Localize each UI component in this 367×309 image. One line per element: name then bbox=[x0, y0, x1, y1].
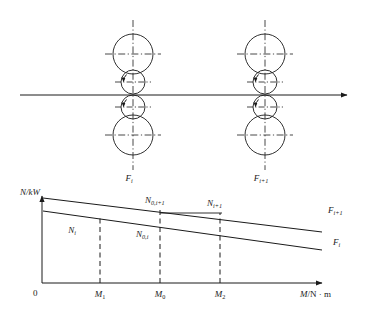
chart-x-axis-label: M/N · m bbox=[299, 289, 331, 299]
stand-i-plus-1-work-roll-bottom-rotation-arrow bbox=[256, 100, 259, 107]
point-label-n-0-i-plus-1: N0,i+1 bbox=[144, 195, 165, 206]
curve-f-i bbox=[43, 211, 322, 250]
chart-origin-label: 0 bbox=[33, 288, 38, 298]
stand-i-plus-1: Fi+1 bbox=[237, 20, 293, 184]
x-tick-label-m2: M2 bbox=[214, 289, 226, 300]
mill-diagram: Fi Fi+1 bbox=[20, 20, 347, 184]
point-label-n-i-plus-1: Ni+1 bbox=[206, 198, 222, 209]
curve-label-f-i-plus-1: Fi+1 bbox=[327, 205, 343, 216]
stand-i-work-roll-bottom-rotation-arrow bbox=[124, 100, 127, 107]
chart-y-axis-label: N/kW bbox=[19, 187, 41, 197]
stand-i-plus-1-label: Fi+1 bbox=[253, 173, 269, 184]
x-tick-label-m0: M0 bbox=[154, 289, 166, 300]
curve-f-i-plus-1 bbox=[43, 198, 322, 232]
point-label-n-i: Ni bbox=[67, 225, 76, 236]
power-torque-chart: N/kW M/N · m 0 M1 M0 M2 Ni N0,i+1 bbox=[19, 187, 343, 300]
stand-i-label: Fi bbox=[124, 173, 133, 184]
stand-i-plus-1-work-roll-top-rotation-arrow bbox=[256, 75, 259, 82]
stand-i: Fi bbox=[105, 20, 161, 184]
stand-i-work-roll-top-rotation-arrow bbox=[124, 75, 127, 82]
rolling-mill-figure: Fi Fi+1 N/kW bbox=[0, 0, 367, 309]
point-label-n-0-i: N0,i bbox=[135, 229, 149, 240]
x-tick-label-m1: M1 bbox=[94, 289, 106, 300]
curve-label-f-i: Fi bbox=[332, 237, 341, 248]
